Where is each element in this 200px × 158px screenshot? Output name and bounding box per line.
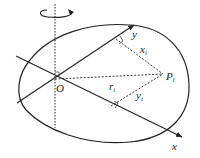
y-axis-label: y <box>131 28 137 40</box>
x-axis-label: x <box>171 140 177 152</box>
x-axis-label-text: x <box>171 140 177 152</box>
radius-label: ri <box>109 80 115 94</box>
x-axis <box>16 56 182 137</box>
y-coordinate-label: yi <box>135 89 143 103</box>
x-coordinate-label: xi <box>139 43 147 57</box>
origin-label: O <box>56 82 64 94</box>
radius-line <box>55 74 163 79</box>
rigid-body-diagram: y x O Pi ri xi yi <box>0 0 200 158</box>
point-label: Pi <box>165 70 175 84</box>
body-outline <box>19 25 189 143</box>
y-axis <box>17 25 134 103</box>
right-angle-marker-y <box>119 36 123 44</box>
rotation-arrow-icon <box>40 9 74 17</box>
